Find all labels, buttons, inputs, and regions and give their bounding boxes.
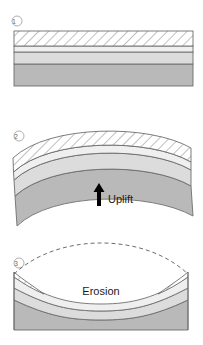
dashed-line-icon xyxy=(14,243,188,274)
panel-2-group: 2 Uplift xyxy=(13,131,193,226)
panel-1-group: 1 xyxy=(12,16,193,86)
erosion-label: Erosion xyxy=(82,285,119,297)
panel-3-group: 3 Erosion xyxy=(14,243,188,330)
panel-1-layer-light xyxy=(14,46,193,52)
panel-1-layer-middle xyxy=(14,52,193,64)
panel-1-layer-basement xyxy=(14,64,193,86)
uplift-label: Uplift xyxy=(108,193,133,205)
panel-1-layer-hatched xyxy=(14,31,193,46)
geologic-cross-section-figure: 1 2 Uplift 3 xyxy=(0,0,203,345)
